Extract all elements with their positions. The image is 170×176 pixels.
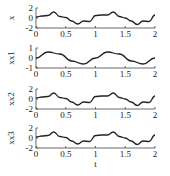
x-tick-label: 0.5 [60,69,72,79]
y-tick-label: -2 [26,23,34,33]
x-tick-label: 2 [153,29,158,39]
x-tick-label: 0 [34,69,39,79]
y-tick-label: 0 [29,53,34,63]
data-line [36,52,155,64]
x-tick-label: 1 [93,110,98,120]
y-tick-label: -2 [26,143,34,153]
y-tick-label: -1 [26,63,34,73]
y-tick-label: 0 [29,133,34,143]
x-tick-label: 0.5 [60,110,72,120]
y-axis-label: x [6,15,16,20]
y-tick-label: 2 [29,84,34,94]
x-tick-label: 1 [93,149,98,159]
panel-4: 20-200.511.52xx3t [6,123,157,169]
stacked-line-charts: 20-200.511.52x10-100.511.52xx120-200.511… [0,0,170,176]
y-axis-label: xx2 [6,92,16,106]
data-line [36,132,155,145]
y-tick-label: 1 [29,43,34,53]
x-tick-label: 2 [153,69,158,79]
x-tick-label: 0.5 [60,29,72,39]
x-axis-label: t [94,159,97,169]
x-tick-label: 1.5 [120,110,132,120]
y-tick-label: 0 [29,94,34,104]
panel-3: 20-200.511.52xx2 [6,84,157,120]
panel-1: 20-200.511.52x [6,3,157,39]
x-tick-label: 1.5 [120,149,132,159]
x-tick-label: 1 [93,69,98,79]
y-tick-label: 0 [29,13,34,23]
x-tick-label: 0.5 [60,149,72,159]
y-tick-label: 2 [29,3,34,13]
panel-2: 10-100.511.52xx1 [6,43,157,79]
x-tick-label: 0 [34,149,39,159]
x-tick-label: 1.5 [120,69,132,79]
y-tick-label: 2 [29,123,34,133]
x-tick-label: 0 [34,29,39,39]
x-tick-label: 0 [34,110,39,120]
x-tick-label: 2 [153,149,158,159]
y-axis-label: xx1 [6,51,16,65]
x-tick-label: 2 [153,110,158,120]
data-line [36,93,155,106]
y-axis-label: xx3 [6,131,16,145]
x-tick-label: 1 [93,29,98,39]
x-tick-label: 1.5 [120,29,132,39]
data-line [36,12,155,25]
y-tick-label: -2 [26,104,34,114]
